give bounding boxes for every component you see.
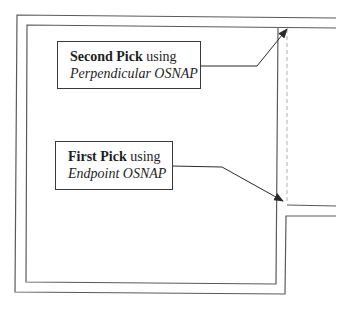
second-pick-title-rest: using [143, 49, 177, 64]
first-pick-title: First Pick using [68, 148, 172, 165]
corridor-line [287, 205, 336, 206]
second-pick-callout: Second Pick using Perpendicular OSNAP [57, 41, 201, 89]
first-pick-title-bold: First Pick [68, 149, 127, 164]
second-pick-title-bold: Second Pick [70, 49, 143, 64]
first-pick-arrow [172, 166, 283, 201]
first-pick-title-rest: using [127, 149, 161, 164]
first-pick-subtitle: Endpoint OSNAP [68, 165, 172, 182]
first-pick-callout: First Pick using Endpoint OSNAP [55, 141, 173, 190]
second-pick-title: Second Pick using [70, 48, 200, 65]
second-pick-arrow [200, 29, 287, 66]
second-pick-subtitle: Perpendicular OSNAP [70, 65, 200, 82]
